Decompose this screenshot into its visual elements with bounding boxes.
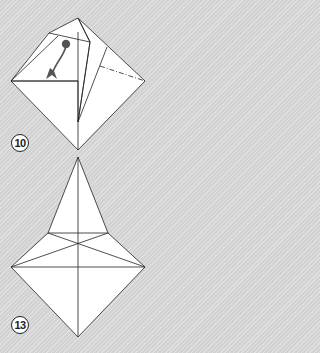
step-10-figure (11, 18, 145, 150)
step-number-badge: 10 (11, 134, 29, 152)
origami-diagram (0, 0, 158, 353)
step-13-figure (11, 157, 145, 337)
step-number-badge: 13 (11, 316, 29, 334)
